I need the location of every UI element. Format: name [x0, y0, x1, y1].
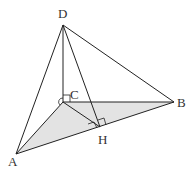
- tetrahedron-diagram: D C B A H: [0, 0, 194, 177]
- edge-db: [63, 25, 174, 102]
- label-h: H: [98, 132, 107, 147]
- right-angle-marker-c: [63, 95, 70, 102]
- label-b: B: [177, 95, 186, 110]
- label-d: D: [58, 6, 67, 21]
- label-a: A: [8, 154, 18, 169]
- label-c: C: [70, 87, 79, 102]
